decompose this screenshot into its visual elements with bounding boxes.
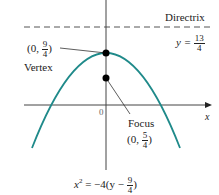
- focus-point: [103, 75, 110, 82]
- x-axis-label: x: [205, 112, 209, 122]
- directrix-label: Directrix: [165, 12, 205, 23]
- focus-coordinates: (0, 54): [127, 131, 152, 150]
- directrix-fraction: 134: [194, 34, 205, 53]
- parabola-equation: x2 = −4(y − 94): [74, 176, 137, 195]
- vertex-point: [103, 50, 110, 57]
- focus-label: Focus: [128, 118, 154, 129]
- vertex-coordinates: (0, 94): [27, 40, 52, 59]
- parabola-diagram: [0, 0, 219, 195]
- vertex-label: Vertex: [24, 62, 53, 73]
- x-axis-arrow-icon: [205, 102, 212, 108]
- directrix-equation: y = 134: [176, 34, 205, 53]
- focus-leader-line: [106, 78, 130, 114]
- vertex-leader-line: [60, 48, 106, 53]
- origin-label: 0: [99, 108, 104, 117]
